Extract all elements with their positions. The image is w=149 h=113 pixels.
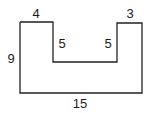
u-shape-diagram: 4 3 5 5 9 15 <box>0 0 149 113</box>
label-height: 9 <box>7 51 14 66</box>
u-shape-outline <box>20 22 142 93</box>
label-right-notch-depth: 5 <box>104 36 111 51</box>
label-bottom-width: 15 <box>73 96 87 111</box>
label-right-top-width: 3 <box>126 6 133 21</box>
label-left-top-width: 4 <box>32 6 39 21</box>
label-left-notch-depth: 5 <box>58 36 65 51</box>
